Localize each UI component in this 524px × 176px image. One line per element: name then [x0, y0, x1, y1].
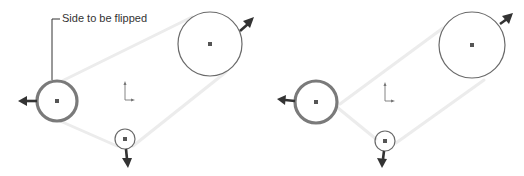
- axis-triad-icon: [124, 81, 136, 102]
- belt-diagrams: [0, 0, 524, 176]
- callout-label: Side to be flipped: [62, 12, 147, 24]
- small-pulley-center: [383, 139, 387, 143]
- diagram-after-flip: [277, 12, 513, 168]
- direction-arrow-icon: [377, 151, 387, 168]
- belt-segment-lower: [338, 108, 376, 139]
- small-pulley-center: [123, 137, 127, 141]
- large-pulley-center: [470, 43, 474, 47]
- belt-segment-upper: [340, 28, 443, 104]
- selected-pulley-center: [55, 99, 59, 103]
- diagram-before-flip: [18, 12, 254, 168]
- callout-leader-line: [52, 19, 60, 80]
- large-pulley-center: [208, 42, 212, 46]
- direction-arrow-icon: [18, 96, 37, 106]
- direction-arrow-icon: [122, 149, 132, 168]
- direction-arrow-icon: [240, 17, 254, 31]
- belt-segment-lower: [60, 121, 117, 146]
- selected-pulley-center: [314, 100, 318, 104]
- axis-triad-icon: [384, 82, 396, 103]
- belt-segment-right: [396, 80, 484, 143]
- direction-arrow-icon: [500, 13, 513, 24]
- belt-segment-right: [133, 72, 226, 146]
- belt-segment-upper: [62, 17, 192, 81]
- direction-arrow-icon: [277, 95, 295, 105]
